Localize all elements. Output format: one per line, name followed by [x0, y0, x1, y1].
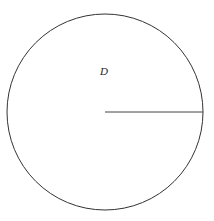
region-label: D — [99, 65, 108, 77]
circle-diagram: D — [0, 0, 214, 221]
